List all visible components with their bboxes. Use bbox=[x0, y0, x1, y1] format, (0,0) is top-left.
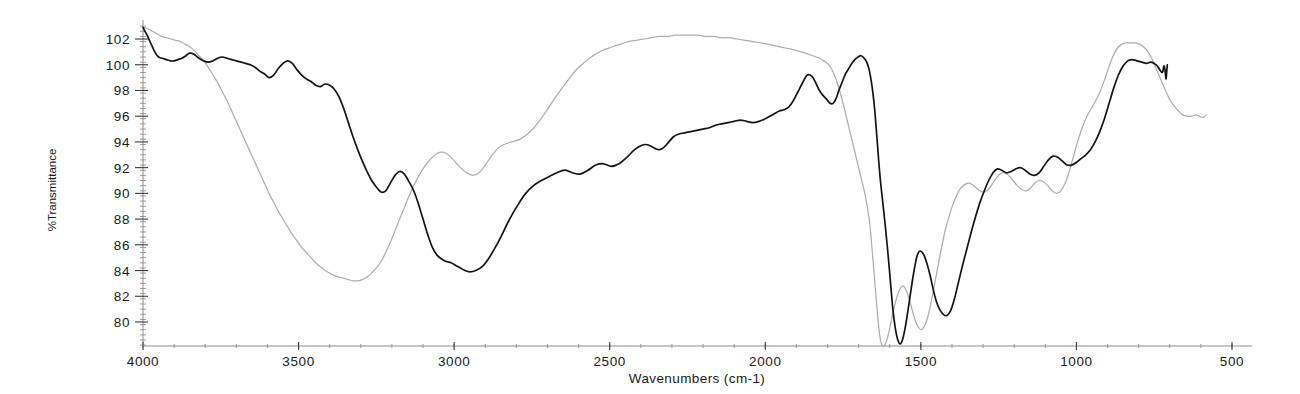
y-tick-label: 94 bbox=[114, 135, 130, 150]
x-tick-label: 2500 bbox=[593, 354, 625, 369]
y-tick-label: 100 bbox=[106, 58, 130, 73]
x-axis-title: Wavenumbers (cm-1) bbox=[629, 371, 765, 386]
x-tick-label: 3000 bbox=[438, 354, 470, 369]
y-tick-label: 88 bbox=[114, 212, 130, 227]
axis-tick-labels: 8082848688909294969810010240003500300025… bbox=[106, 32, 1244, 369]
x-tick-label: 3500 bbox=[282, 354, 314, 369]
y-tick-label: 96 bbox=[114, 109, 130, 124]
series-paths bbox=[143, 27, 1206, 346]
y-tick-label: 80 bbox=[114, 315, 130, 330]
y-tick-label: 92 bbox=[114, 161, 130, 176]
x-tick-label: 4000 bbox=[127, 354, 159, 369]
x-tick-label: 1000 bbox=[1060, 354, 1092, 369]
x-tick-label: 1500 bbox=[905, 354, 937, 369]
y-tick-label: 98 bbox=[114, 83, 130, 98]
y-tick-label: 86 bbox=[114, 238, 130, 253]
ftir-spectrum-figure: 8082848688909294969810010240003500300025… bbox=[0, 0, 1300, 394]
x-tick-label: 500 bbox=[1220, 354, 1244, 369]
y-tick-label: 102 bbox=[106, 32, 130, 47]
y-axis-title: %Transmittance bbox=[46, 149, 58, 232]
y-tick-label: 84 bbox=[114, 264, 130, 279]
y-tick-label: 82 bbox=[114, 289, 130, 304]
spectrum-plot: 8082848688909294969810010240003500300025… bbox=[0, 0, 1300, 394]
axes bbox=[135, 20, 1252, 350]
series-line-primary bbox=[143, 27, 1167, 343]
x-tick-label: 2000 bbox=[749, 354, 781, 369]
y-tick-label: 90 bbox=[114, 186, 130, 201]
